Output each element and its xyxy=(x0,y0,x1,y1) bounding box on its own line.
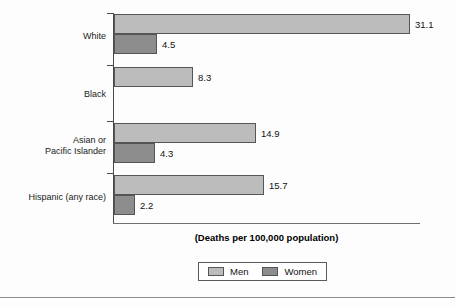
y-axis-tick xyxy=(107,121,114,122)
legend-entry-men[interactable]: Men xyxy=(208,266,248,277)
bottom-divider xyxy=(0,297,455,298)
y-axis-tick xyxy=(107,13,114,14)
y-axis-tick xyxy=(107,65,114,66)
legend-swatch-women xyxy=(262,267,278,276)
legend-label-women: Women xyxy=(284,266,317,277)
category-label: Asian or Pacific Islander xyxy=(0,135,106,157)
x-axis-title: (Deaths per 100,000 population) xyxy=(113,232,420,243)
bar-value-label: 14.9 xyxy=(261,128,280,139)
category-label: White xyxy=(0,31,106,42)
legend-entry-women[interactable]: Women xyxy=(262,266,317,277)
category-label: Black xyxy=(0,89,106,100)
bar-value-label: 4.3 xyxy=(160,148,173,159)
bar-value-label: 8.3 xyxy=(198,72,211,83)
category-label: Hispanic (any race) xyxy=(0,192,106,203)
chart-figure: White 31.1 4.5 Black 8.3 Asian or Pacifi… xyxy=(0,0,455,306)
bar-men[interactable] xyxy=(114,14,410,34)
bar-value-label: 15.7 xyxy=(269,180,288,191)
bar-men[interactable] xyxy=(114,175,264,195)
legend-swatch-men xyxy=(208,267,224,276)
bar-value-label: 31.1 xyxy=(415,19,434,30)
plot-area: White 31.1 4.5 Black 8.3 Asian or Pacifi… xyxy=(0,0,455,232)
chart-legend: Men Women xyxy=(198,262,327,281)
y-axis-tick xyxy=(107,173,114,174)
x-axis-line xyxy=(113,223,420,224)
bar-value-label: 2.2 xyxy=(140,200,153,211)
bar-women[interactable] xyxy=(114,195,135,215)
bar-women[interactable] xyxy=(114,143,155,163)
bar-men[interactable] xyxy=(114,67,193,87)
bar-value-label: 4.5 xyxy=(162,39,175,50)
legend-label-men: Men xyxy=(230,266,248,277)
bar-women[interactable] xyxy=(114,34,157,54)
bar-men[interactable] xyxy=(114,123,256,143)
